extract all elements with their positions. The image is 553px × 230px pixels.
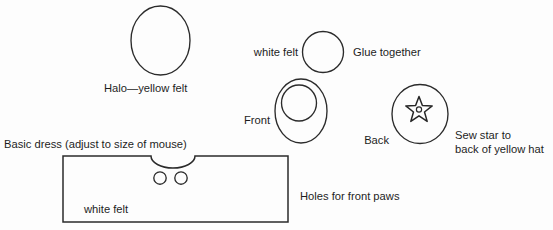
front-inner-ellipse-shape (282, 85, 317, 121)
star-icon (406, 97, 432, 122)
paw-hole-right-shape (175, 172, 187, 184)
white-felt-dress-label: white felt (83, 203, 129, 215)
back-label: Back (364, 134, 389, 146)
back-ellipse-shape (392, 85, 448, 144)
pattern-diagram-canvas: Halo—yellow felt white felt Glue togethe… (0, 0, 553, 230)
white-felt-circle-shape (303, 32, 344, 73)
glue-together-label: Glue together (353, 46, 421, 58)
sew-star-line1-label: Sew star to (455, 129, 511, 141)
holes-front-paws-label: Holes for front paws (300, 190, 400, 202)
white-felt-top-label: white felt (253, 46, 299, 58)
halo-label: Halo—yellow felt (104, 82, 188, 94)
front-label: Front (244, 114, 271, 126)
sew-star-line2-label: back of yellow hat (455, 143, 545, 155)
halo-ellipse-shape (131, 6, 190, 75)
paw-hole-left-shape (154, 172, 166, 184)
basic-dress-label: Basic dress (adjust to size of mouse) (4, 138, 187, 150)
pattern-diagram-svg: Halo—yellow felt white felt Glue togethe… (0, 0, 553, 230)
